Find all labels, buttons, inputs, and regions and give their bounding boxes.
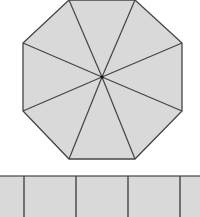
octagon-center-point bbox=[100, 75, 103, 78]
octagon-shape bbox=[23, 0, 182, 159]
diagram-canvas bbox=[0, 0, 200, 217]
rectangle-strip bbox=[0, 176, 200, 217]
strip-background bbox=[0, 176, 200, 217]
